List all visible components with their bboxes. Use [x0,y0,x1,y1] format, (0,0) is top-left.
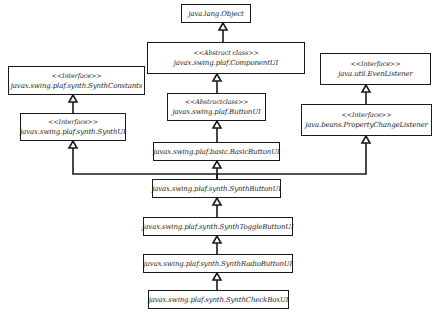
class-name: javax.swing.plaf.synth.SynthToggleButton… [142,222,293,232]
class-box-synthradiobuttonui: javax.swing.plaf.synth.SynthRadioButtonU… [143,254,293,273]
class-box-buttonui: <<Abstractclass>> javax.swing.plaf.Butto… [167,93,266,121]
class-box-object: java.lang.Object [181,4,251,23]
interface-box-synthui: <<Interface>> javax.swing.plaf.synth.Syn… [20,113,126,141]
stereotype-label: <<Interface>> [342,110,392,120]
class-box-synthbuttonui: javax.swing.plaf.synth.SynthButtonUI [152,179,281,198]
inheritance-arrow [213,273,221,290]
class-name: javax.swing.plaf.ComponentUI [174,58,278,68]
inheritance-arrow [219,23,227,42]
stereotype-label: <<Interface>> [351,59,401,69]
class-name: javax.swing.plaf.synth.SynthUI [20,127,126,137]
class-name: java.beans.PropertyChangeListener [305,120,427,130]
stereotype-label: <<Interface>> [52,71,102,81]
stereotype-label: <<Abstractclass>> [185,97,249,107]
inheritance-arrow [362,85,370,104]
stereotype-label: <<Abstract class>> [193,48,258,58]
class-box-componentui: <<Abstract class>> javax.swing.plaf.Comp… [147,42,305,74]
class-box-synthcheckboxui: javax.swing.plaf.synth.SynthCheckBoxUI [148,290,289,309]
class-name: java.lang.Object [188,9,243,19]
stereotype-label: <<Interface>> [48,117,98,127]
uml-class-diagram: java.lang.Object <<Abstract class>> java… [0,0,437,312]
class-name: javax.swing.plaf.basic.BasicButtonUI [153,147,279,157]
class-box-basicbuttonui: javax.swing.plaf.basic.BasicButtonUI [153,142,280,161]
class-name: javax.swing.plaf.synth.SynthRadioButtonU… [144,259,292,269]
inheritance-arrow [213,74,221,93]
inheritance-arrow [213,121,221,142]
class-name: javax.swing.plaf.synth.SynthCheckBoxUI [149,295,289,305]
class-box-synthtogglebuttonui: javax.swing.plaf.synth.SynthToggleButton… [143,217,293,236]
inheritance-arrow [213,236,221,254]
class-name: javax.swing.plaf.synth.SynthButtonUI [152,184,281,194]
class-name: javax.swing.plaf.synth.SynthConstants [11,81,142,91]
class-name: javax.swing.plaf.ButtonUI [172,107,260,117]
interface-box-evenlistener: <<Interface>> java.util.EvenListener [320,53,431,85]
inheritance-arrow [69,141,77,148]
interface-box-propertychangelistener: <<Interface>> java.beans.PropertyChangeL… [301,104,432,136]
inheritance-arrow [213,198,221,217]
interface-box-synthconstants: <<Interface>> javax.swing.plaf.synth.Syn… [8,66,145,95]
inheritance-arrow [69,95,77,113]
class-name: java.util.EvenListener [338,69,413,79]
inheritance-arrow [362,136,370,143]
